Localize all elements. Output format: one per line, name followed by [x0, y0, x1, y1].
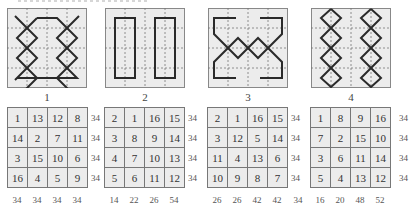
- table-cell: 16: [8, 168, 28, 188]
- col-sum: 34: [27, 195, 47, 205]
- col-sum: 34: [47, 195, 67, 205]
- table-row: 541312: [311, 168, 391, 188]
- table-cell: 7: [48, 128, 68, 148]
- table-cell: 12: [165, 168, 185, 188]
- table-cell: 5: [48, 168, 68, 188]
- table-cell: 11: [351, 148, 371, 168]
- table-row: 10987: [208, 168, 288, 188]
- table-cell: 8: [125, 128, 145, 148]
- table-cell: 1: [125, 108, 145, 128]
- table-cell: 4: [28, 168, 48, 188]
- table-cell: 12: [228, 128, 248, 148]
- table-cell: 9: [68, 168, 88, 188]
- table-cell: 7: [268, 168, 288, 188]
- table-cell: 8: [68, 108, 88, 128]
- table-cell: 2: [105, 108, 125, 128]
- table-cell: 15: [268, 108, 288, 128]
- col-sum: 14: [104, 195, 124, 205]
- table-cell: 14: [8, 128, 28, 148]
- row-sum: 34: [91, 133, 105, 143]
- table-row: 16459: [8, 168, 88, 188]
- table-cell: 16: [145, 108, 165, 128]
- table-cell: 3: [105, 128, 125, 148]
- table-cell: 13: [248, 148, 268, 168]
- col-sum: 52: [370, 195, 390, 205]
- table-row: 142711: [8, 128, 88, 148]
- row-sum: 34: [188, 113, 202, 123]
- col-sum: 42: [267, 195, 287, 205]
- row-sum: 34: [91, 113, 105, 123]
- pattern-1-drawing: [7, 8, 87, 88]
- table-cell: 15: [28, 148, 48, 168]
- pattern-grid-4: [311, 8, 391, 88]
- row-sum: 34: [91, 173, 105, 183]
- col-sum: 42: [247, 195, 267, 205]
- table-row: 471013: [105, 148, 185, 168]
- table-row: 361114: [311, 148, 391, 168]
- row-sum: 34: [399, 153, 413, 163]
- table-cell: 16: [371, 108, 391, 128]
- row-sum: 34: [399, 133, 413, 143]
- magic-square-table-1: 113128 142711 315106 16459: [7, 107, 88, 188]
- cut-off-caption-text: [18, 0, 148, 2]
- row-sum: 34: [399, 113, 413, 123]
- pattern-label-3: 3: [208, 91, 288, 103]
- table-cell: 15: [351, 128, 371, 148]
- table-cell: 2: [28, 128, 48, 148]
- table-row: 721510: [311, 128, 391, 148]
- col-sum: 16: [310, 195, 330, 205]
- table-row: 18916: [311, 108, 391, 128]
- table-row: 38914: [105, 128, 185, 148]
- col-sum: 20: [330, 195, 350, 205]
- table-cell: 1: [8, 108, 28, 128]
- table-cell: 13: [165, 148, 185, 168]
- row-sum: 34: [188, 133, 202, 143]
- table-cell: 6: [125, 168, 145, 188]
- table-cell: 7: [311, 128, 331, 148]
- pattern-grid-1: [7, 8, 87, 88]
- table-cell: 1: [311, 108, 331, 128]
- col-sum: 54: [164, 195, 184, 205]
- table-cell: 14: [165, 128, 185, 148]
- table-cell: 11: [68, 128, 88, 148]
- table-cell: 5: [311, 168, 331, 188]
- table-cell: 13: [351, 168, 371, 188]
- table-cell: 10: [145, 148, 165, 168]
- pattern-4-drawing: [311, 8, 391, 88]
- col-sum: 22: [124, 195, 144, 205]
- table-cell: 10: [48, 148, 68, 168]
- table-cell: 7: [125, 148, 145, 168]
- table-cell: 14: [371, 148, 391, 168]
- col-sum: 48: [350, 195, 370, 205]
- row-sum: 34: [291, 133, 305, 143]
- table-cell: 15: [165, 108, 185, 128]
- table-cell: 10: [371, 128, 391, 148]
- row-sum: 34: [291, 153, 305, 163]
- table-cell: 5: [248, 128, 268, 148]
- table-row: 312514: [208, 128, 288, 148]
- col-sum: 26: [207, 195, 227, 205]
- table-cell: 2: [331, 128, 351, 148]
- table-cell: 4: [331, 168, 351, 188]
- table-row: 561112: [105, 168, 185, 188]
- table-cell: 8: [248, 168, 268, 188]
- table-cell: 13: [28, 108, 48, 128]
- col-sum: 26: [144, 195, 164, 205]
- table-cell: 6: [331, 148, 351, 168]
- table-cell: 16: [248, 108, 268, 128]
- table-cell: 5: [105, 168, 125, 188]
- table-cell: 3: [8, 148, 28, 168]
- magic-square-table-2: 211615 38914 471013 561112: [104, 107, 185, 188]
- pattern-label-2: 2: [105, 91, 185, 103]
- table-row: 211615: [105, 108, 185, 128]
- row-sum: 34: [399, 173, 413, 183]
- table-cell: 3: [208, 128, 228, 148]
- table-cell: 4: [228, 148, 248, 168]
- table-row: 113128: [8, 108, 88, 128]
- table-cell: 11: [208, 148, 228, 168]
- table-cell: 12: [48, 108, 68, 128]
- table-cell: 8: [331, 108, 351, 128]
- table-cell: 4: [105, 148, 125, 168]
- row-sum: 34: [188, 153, 202, 163]
- table-row: 114136: [208, 148, 288, 168]
